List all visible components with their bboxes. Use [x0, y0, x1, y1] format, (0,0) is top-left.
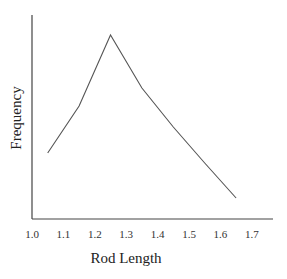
x-tick-label: 1.5: [182, 228, 196, 240]
x-tick-label: 1.0: [25, 228, 39, 240]
x-tick-label: 1.3: [119, 228, 133, 240]
x-tick-label: 1.4: [151, 228, 165, 240]
x-tick-label: 1.7: [245, 228, 259, 240]
x-tick-label: 1.2: [88, 228, 102, 240]
x-tick-label: 1.6: [214, 228, 228, 240]
x-axis-label: Rod Length: [90, 250, 162, 266]
line-chart: 1.01.11.21.31.41.51.61.7 Rod Length Freq…: [0, 0, 287, 279]
x-tick-label: 1.1: [57, 228, 71, 240]
x-tick-labels: 1.01.11.21.31.41.51.61.7: [25, 228, 259, 240]
y-axis-label: Frequency: [8, 86, 24, 150]
data-line: [48, 35, 236, 198]
